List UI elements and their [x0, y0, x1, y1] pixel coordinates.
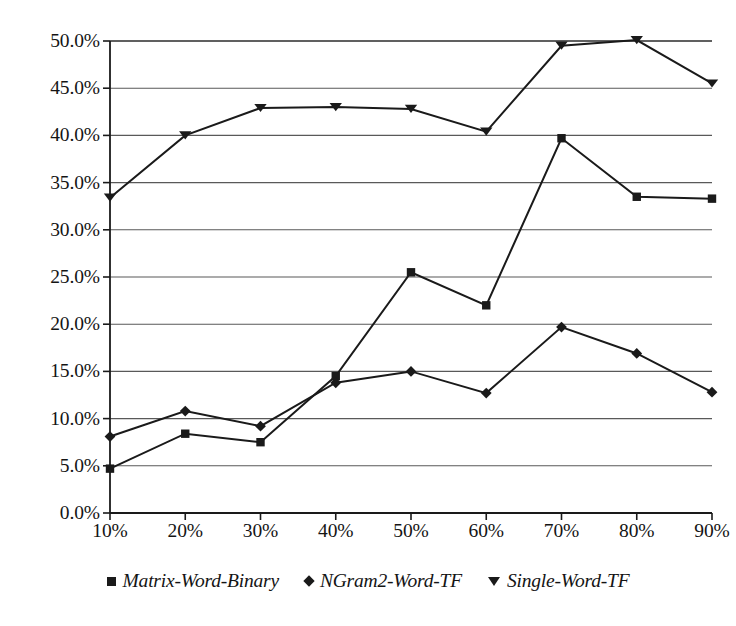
x-tick-label: 60%: [446, 521, 526, 541]
x-tick-label: 90%: [672, 521, 736, 541]
y-tick-label: 5.0%: [8, 456, 100, 476]
y-tick-marks: [103, 41, 110, 513]
legend-triangle-down-icon: [488, 577, 500, 586]
legend-item: Single-Word-TF: [488, 570, 630, 592]
legend-item-label: NGram2-Word-TF: [320, 570, 462, 592]
y-tick-label: 25.0%: [8, 267, 100, 287]
x-tick-label: 20%: [145, 521, 225, 541]
y-tick-label: 20.0%: [8, 314, 100, 334]
legend-item-label: Matrix-Word-Binary: [123, 570, 279, 592]
x-tick-label: 30%: [221, 521, 301, 541]
x-tick-label: 70%: [522, 521, 602, 541]
y-tick-label: 10.0%: [8, 409, 100, 429]
y-tick-label: 40.0%: [8, 126, 100, 146]
y-tick-label: 35.0%: [8, 173, 100, 193]
legend-diamond-icon: [303, 575, 314, 586]
legend-item-label: Single-Word-TF: [507, 570, 630, 592]
chart-legend: Matrix-Word-BinaryNGram2-Word-TFSingle-W…: [0, 570, 736, 592]
x-tick-label: 80%: [597, 521, 677, 541]
x-tick-label: 40%: [296, 521, 376, 541]
legend-item: Matrix-Word-Binary: [107, 570, 279, 592]
x-tick-label: 50%: [371, 521, 451, 541]
y-tick-label: 45.0%: [8, 78, 100, 98]
y-tick-label: 0.0%: [8, 503, 100, 523]
y-tick-label: 30.0%: [8, 220, 100, 240]
y-tick-label: 15.0%: [8, 362, 100, 382]
legend-item: NGram2-Word-TF: [305, 570, 462, 592]
x-axis: 10%20%30%40%50%60%70%80%90%: [110, 0, 712, 626]
line-chart: 0.0%5.0%10.0%15.0%20.0%25.0%30.0%35.0%40…: [0, 0, 736, 626]
x-tick-label: 10%: [70, 521, 150, 541]
legend-square-icon: [107, 577, 116, 586]
y-tick-label: 50.0%: [8, 31, 100, 51]
